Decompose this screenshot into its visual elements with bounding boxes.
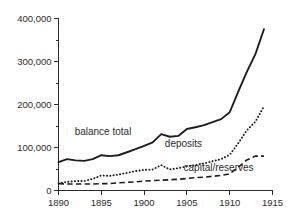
chart-container: 0100,000200,000300,000400,000 1890189519… (0, 0, 306, 216)
x-tick-label: 1895 (91, 197, 112, 208)
x-tick-label: 1905 (176, 197, 197, 208)
x-tick-label: 1915 (262, 197, 283, 208)
y-tick-label: 400,000 (17, 13, 51, 24)
x-tick-label: 1890 (48, 197, 69, 208)
series-label-capital-reserves: capital/reserves (184, 162, 254, 173)
series-label-deposits: deposits (165, 138, 202, 149)
y-tick-label: 300,000 (17, 56, 51, 67)
y-tick-label: 200,000 (17, 99, 51, 110)
line-chart: 0100,000200,000300,000400,000 1890189519… (0, 0, 306, 216)
x-tick-label: 1910 (219, 197, 240, 208)
y-tick-label: 0 (46, 185, 51, 196)
series-label-balance-total: balance total (75, 126, 132, 137)
y-tick-label: 100,000 (17, 142, 51, 153)
x-tick-label: 1900 (134, 197, 155, 208)
